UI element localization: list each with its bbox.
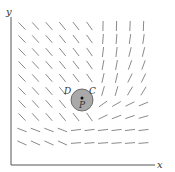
vector-arrow [141,74,145,83]
vector-arrow [139,116,149,119]
vector-arrow [143,34,144,44]
vector-arrow [32,22,39,29]
vector-arrow [32,74,39,81]
vector-arrow [46,61,53,69]
vector-arrow [19,22,26,29]
vector-arrow [139,129,149,130]
vector-arrow [102,86,105,96]
vector-arrow [102,73,104,83]
vector-field-diagram: y x P D C [0,0,175,172]
vector-arrow [127,87,132,96]
vector-arrow [46,74,53,82]
vector-arrow [102,60,104,70]
vector-arrow [116,34,117,44]
vector-arrow [112,129,122,130]
vector-arrow [87,48,93,56]
vector-arrow [19,35,26,42]
vector-arrow [87,22,93,30]
vector-arrow [87,35,93,43]
vector-arrow [44,128,53,132]
vector-arrow [139,102,148,106]
vector-arrow [71,143,81,144]
vector-arrow [19,113,26,120]
vector-arrow [32,113,39,120]
vector-field-arrows [17,21,148,145]
vector-arrow [19,61,26,68]
vector-arrow [128,74,132,83]
vector-arrow [19,48,26,55]
vector-arrow [116,47,117,57]
vector-arrow [87,74,93,82]
vector-arrow [71,129,81,130]
vector-arrow [46,113,53,121]
vector-arrow [85,143,95,144]
vector-arrow [59,100,65,108]
vector-arrow [58,141,67,145]
vector-arrow [46,48,53,56]
vector-arrow [99,101,107,107]
vector-arrow [59,48,65,56]
vector-arrow [139,143,149,144]
y-axis-label: y [5,6,12,17]
vector-arrow [116,60,118,70]
vector-arrow [98,129,108,130]
vector-arrow [46,35,53,43]
vector-arrow [103,34,104,44]
vector-arrow [46,22,53,30]
vector-arrow [19,87,26,94]
vector-arrow [115,73,117,83]
vector-arrow [73,48,79,56]
vector-arrow [102,47,103,57]
vector-arrow [46,87,53,95]
vector-arrow [17,141,26,145]
boundary-label: C [89,86,96,96]
vector-arrow [112,115,121,119]
vector-arrow [128,60,131,69]
vector-arrow [125,115,134,118]
vector-arrow [32,61,39,68]
vector-arrow [58,128,67,132]
vector-arrow [125,143,135,144]
vector-arrow [99,115,108,119]
vector-arrow [85,129,95,130]
region-label: D [63,86,71,96]
point-label: P [78,100,86,110]
vector-arrow [73,22,79,30]
vector-arrow [44,141,53,145]
vector-arrow [98,143,108,144]
vector-arrow [31,141,40,145]
vector-arrow [73,113,79,121]
vector-arrow [31,128,40,132]
vector-arrow [112,143,122,144]
vector-arrow [32,100,39,107]
vector-arrow [87,113,93,121]
x-axis-label: x [157,159,163,170]
vector-arrow [73,61,79,69]
vector-arrow [32,48,39,55]
vector-arrow [32,35,39,42]
vector-arrow [126,102,135,106]
vector-arrow [112,102,121,107]
vector-arrow [73,74,79,82]
vector-arrow [115,86,118,96]
vector-arrow [142,60,145,69]
vector-arrow [125,129,135,130]
vector-arrow [141,87,146,96]
vector-arrow [59,61,65,69]
vector-arrow [59,113,65,121]
vector-arrow [59,74,65,82]
vector-arrow [59,22,65,30]
vector-arrow [73,35,79,43]
vector-arrow [19,74,26,81]
vector-arrow [17,128,26,132]
vector-arrow [46,100,53,108]
vector-arrow [129,47,131,57]
vector-arrow [59,35,65,43]
vector-arrow [32,87,39,94]
vector-arrow [19,100,26,107]
vector-arrow [129,34,130,44]
vector-arrow [87,61,93,69]
vector-arrow [142,47,144,57]
